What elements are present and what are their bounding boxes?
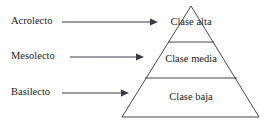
tier-label-clase-baja: Clase baja [169,91,213,102]
tier-label-clase-alta: Clase alta [170,16,211,27]
lect-label-basilecto: Basilecto [11,86,50,97]
lect-label-mesolecto: Mesolecto [11,50,55,61]
arrow-basilecto [62,90,129,97]
arrow-mesolecto [70,54,144,61]
diagram-svg: Acrolecto Mesolecto Basilecto Clase alta… [0,0,272,123]
arrow-acrolecto [62,19,158,26]
tier-label-clase-media: Clase media [165,53,217,64]
lect-label-acrolecto: Acrolecto [11,15,52,26]
arrow-acrolecto-head [150,19,158,26]
pyramid-diagram-canvas: Acrolecto Mesolecto Basilecto Clase alta… [0,0,272,123]
arrow-mesolecto-head [136,54,144,61]
arrow-basilecto-head [121,90,129,97]
